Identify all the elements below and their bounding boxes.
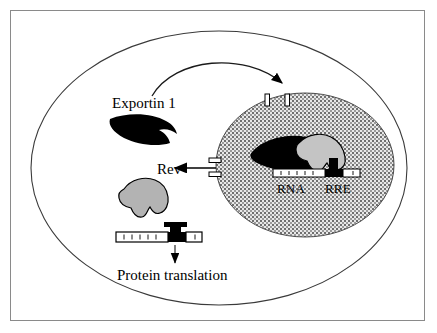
figure-root: Exportin 1 Rev RNA RRE Protein translati… bbox=[0, 0, 437, 333]
rna-strand-cytoplasmic bbox=[116, 222, 202, 242]
exportin-import-arc-to-nucleus bbox=[152, 63, 282, 96]
diagram-canvas bbox=[0, 0, 437, 333]
label-rre: RRE bbox=[325, 182, 351, 195]
rre-stem-loop-nuclear bbox=[329, 158, 338, 170]
label-protein-translation: Protein translation bbox=[117, 268, 227, 283]
label-exportin-1: Exportin 1 bbox=[112, 96, 176, 111]
label-rna: RNA bbox=[277, 182, 305, 195]
rev-blob-cytoplasmic bbox=[119, 178, 168, 217]
exportin-crescent-cytoplasmic bbox=[110, 114, 177, 145]
label-rev: Rev bbox=[157, 162, 181, 177]
